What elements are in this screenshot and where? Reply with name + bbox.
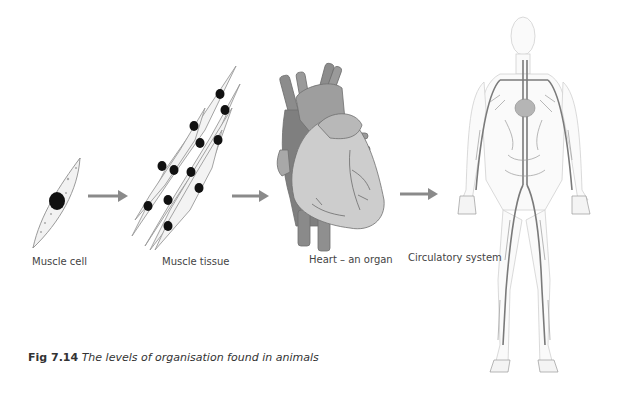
stage-label-circulatory-system: Circulatory system: [408, 252, 502, 263]
circulatory-system-icon: [0, 0, 625, 393]
figure-number: Fig 7.14: [28, 351, 78, 364]
figure-caption-text: The levels of organisation found in anim…: [82, 351, 319, 364]
figure-caption: Fig 7.14 The levels of organisation foun…: [28, 351, 319, 364]
figure: Muscle cell Muscle tissue: [0, 0, 625, 393]
